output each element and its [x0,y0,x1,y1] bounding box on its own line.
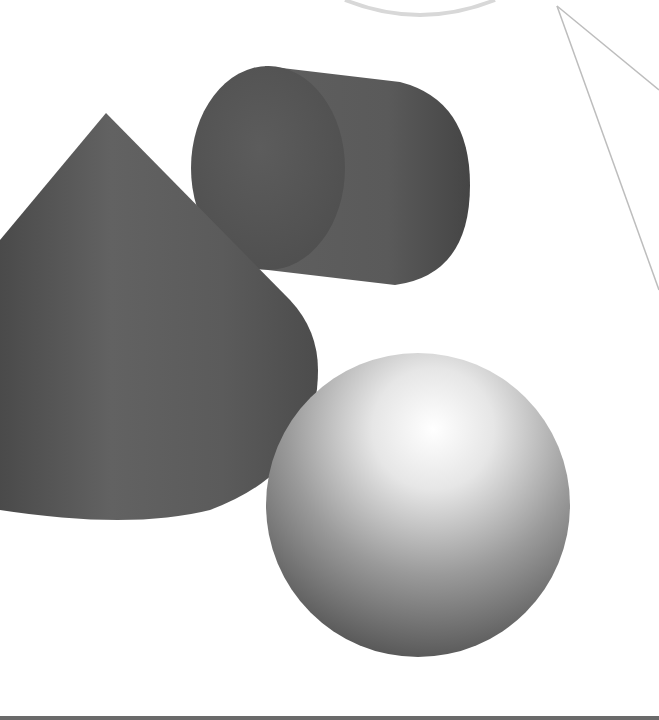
bottom-edge [0,716,659,720]
scene-canvas [0,0,659,720]
background-ring [345,0,495,15]
sphere-shape [266,353,570,657]
